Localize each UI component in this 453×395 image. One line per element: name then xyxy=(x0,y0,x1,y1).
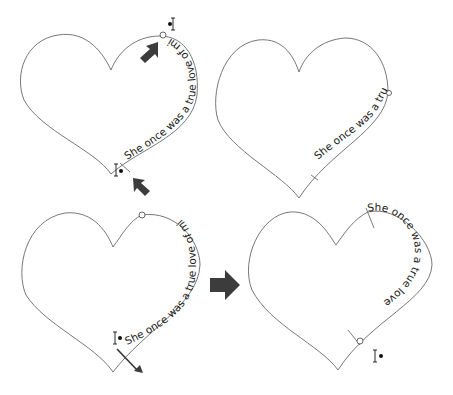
end-handle[interactable] xyxy=(139,212,145,218)
pointer-arrow-icon xyxy=(133,178,150,196)
heart-path xyxy=(22,213,200,372)
panel-bottom-left: She once was a true love of mine xyxy=(0,0,200,373)
end-handle[interactable] xyxy=(160,32,166,38)
end-handle[interactable] xyxy=(387,91,392,96)
heart-path xyxy=(20,34,197,174)
panel-bottom-right: She once was a true love of mine xyxy=(0,0,432,370)
pointer-arrow-icon xyxy=(140,42,158,63)
panel-top-left: She once was a true love of mine xyxy=(0,0,198,196)
path-text: She once was a true love of mine xyxy=(0,0,425,312)
text-cursor-icon xyxy=(113,332,122,344)
end-handle[interactable] xyxy=(357,338,363,344)
diagram-canvas: She once was a true love of mine She onc… xyxy=(0,0,453,395)
text-cursor-icon xyxy=(373,350,383,362)
transition-arrow-icon xyxy=(210,270,240,300)
drag-direction-arrow[interactable] xyxy=(117,349,138,371)
